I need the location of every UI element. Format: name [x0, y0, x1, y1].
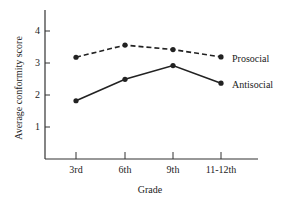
legend-antisocial: Antisocial [232, 79, 273, 90]
data-point [170, 63, 175, 68]
x-axis-label: Grade [138, 184, 163, 195]
data-point [170, 47, 175, 52]
y-tick-label: 4 [35, 25, 40, 36]
y-tick-label: 2 [35, 89, 40, 100]
y-axis-label: Average conformity score [13, 36, 24, 140]
x-tick-label: 9th [167, 164, 180, 175]
data-point [122, 42, 127, 47]
line-chart: 4 3 2 1 Average conformity score 3rd 6th… [0, 0, 288, 202]
series-line-prosocial [76, 45, 221, 57]
legend-prosocial: Prosocial [232, 53, 269, 64]
x-axis: 3rd 6th 9th 11-12th Grade [45, 152, 258, 195]
y-tick-label: 1 [35, 121, 40, 132]
data-point [218, 81, 223, 86]
data-point [122, 77, 127, 82]
series-layer [73, 42, 223, 103]
x-tick-label: 3rd [69, 164, 82, 175]
y-axis: 4 3 2 1 Average conformity score [13, 10, 50, 159]
series-line-antisocial [76, 66, 221, 101]
x-tick-label: 6th [119, 164, 132, 175]
x-tick-label: 11-12th [206, 164, 237, 175]
data-point [73, 55, 78, 60]
data-point [218, 54, 223, 59]
data-point [73, 98, 78, 103]
y-tick-label: 3 [35, 57, 40, 68]
